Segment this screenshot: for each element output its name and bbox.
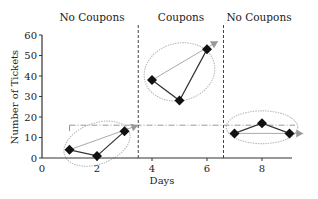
trend-arrow-line [70, 125, 139, 150]
y-tick-label: 40 [24, 71, 37, 82]
x-tick-label: 8 [259, 163, 265, 174]
chart: 010203040506002468 No Coupons Coupons No… [0, 0, 318, 199]
x-tick-label: 6 [204, 163, 210, 174]
y-axis-label: Number of Tickets [9, 50, 20, 144]
x-axis-label: Days [150, 175, 175, 186]
diamond-marker-icon [147, 75, 157, 85]
y-tick-label: 60 [24, 30, 37, 41]
y-tick-label: 10 [24, 132, 37, 143]
region-label-coupons: Coupons [158, 11, 204, 23]
region-label-no-coupons-2: No Coupons [226, 11, 291, 23]
diamond-marker-icon [230, 128, 240, 138]
x-tick-label: 0 [39, 163, 45, 174]
diamond-marker-icon [65, 145, 75, 155]
trend-arrows [70, 41, 304, 150]
y-tick-label: 0 [31, 153, 37, 164]
diamond-marker-icon [175, 96, 185, 106]
y-tick-label: 30 [24, 91, 37, 102]
x-tick-label: 2 [94, 163, 100, 174]
y-tick-label: 20 [24, 112, 37, 123]
cluster-ellipses [58, 35, 298, 175]
diamond-marker-icon [257, 118, 267, 128]
arrowhead-icon [296, 129, 303, 137]
region-label-no-coupons-1: No Coupons [59, 11, 124, 23]
data-series [65, 44, 295, 161]
x-tick-label: 4 [149, 163, 155, 174]
y-tick-label: 50 [24, 50, 37, 61]
diamond-marker-icon [285, 128, 295, 138]
